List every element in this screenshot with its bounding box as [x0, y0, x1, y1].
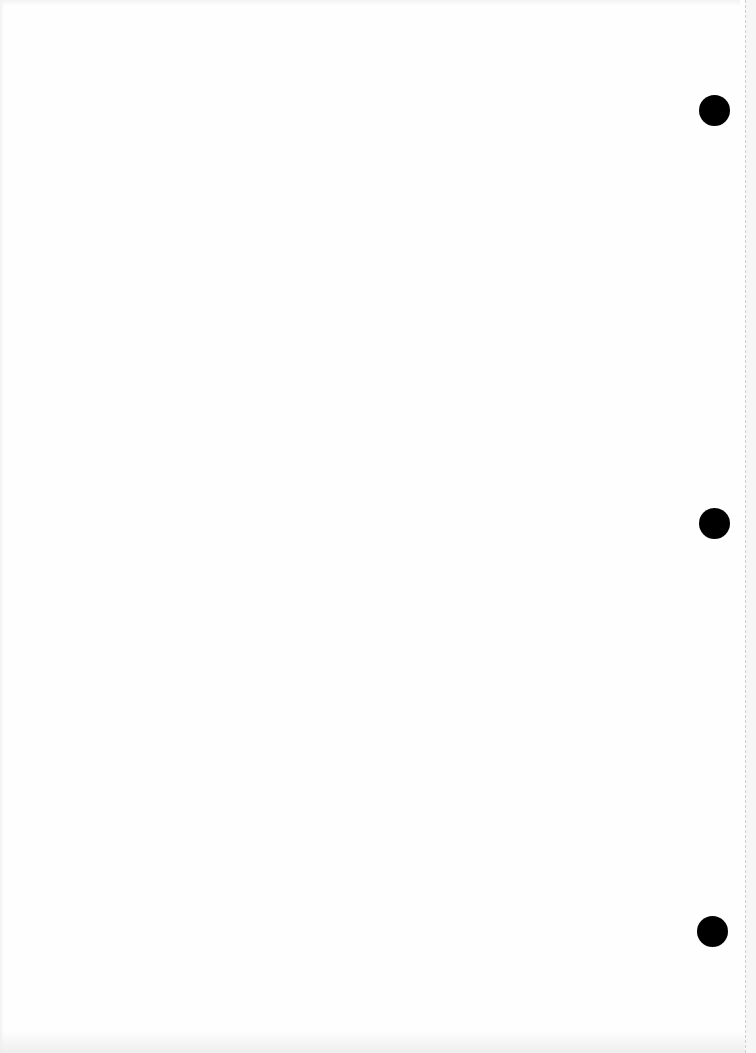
punch-hole-bottom-icon	[697, 916, 728, 947]
punch-hole-middle-icon	[699, 508, 730, 539]
scan-shadow-bottom	[0, 1031, 745, 1053]
page-edge-line	[745, 0, 746, 1053]
scanned-page	[0, 0, 756, 1053]
punch-hole-top-icon	[699, 95, 730, 126]
scan-shadow-left	[0, 0, 4, 1053]
page-edge-strip	[746, 0, 756, 1053]
scan-shadow-top	[0, 0, 740, 6]
